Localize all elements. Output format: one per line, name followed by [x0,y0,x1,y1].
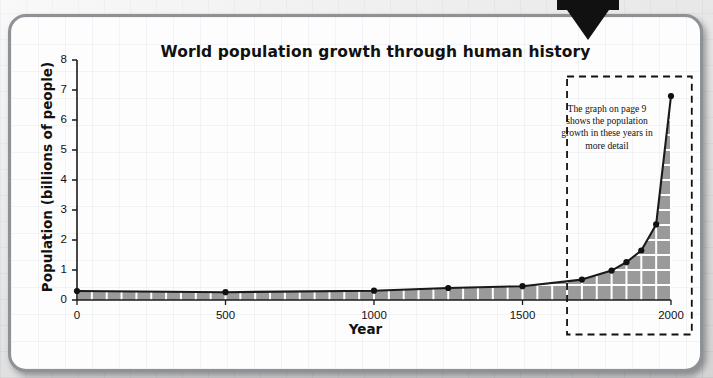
y-tick-label: 1 [45,263,67,275]
y-tick-label: 3 [45,203,67,215]
data-point [668,93,674,99]
data-point [638,247,644,253]
x-tick-label: 1000 [351,309,397,321]
data-point [222,289,228,295]
y-tick-label: 6 [45,113,67,125]
data-point [74,288,80,294]
y-tick-label: 2 [45,233,67,245]
data-point [623,259,629,265]
y-tick-label: 4 [45,173,67,185]
x-tick-label: 2000 [648,309,694,321]
axis-lines [77,60,671,300]
data-point [519,283,525,289]
y-tick-label: 7 [45,83,67,95]
x-tick-label: 0 [54,309,100,321]
inner-gridlines [77,60,671,300]
x-tick-label: 500 [203,309,249,321]
data-point [653,221,659,227]
x-tick-label: 1500 [500,309,546,321]
data-point [371,288,377,294]
chart-card: World population growth through human hi… [8,14,703,372]
y-tick-label: 8 [45,53,67,65]
data-point [609,268,615,274]
data-point [445,285,451,291]
annotation-note: The graph on page 9 shows the population… [559,103,655,152]
y-tick-label: 0 [45,293,67,305]
y-tick-label: 5 [45,143,67,155]
data-point [579,277,585,283]
down-arrow-icon [551,0,625,42]
